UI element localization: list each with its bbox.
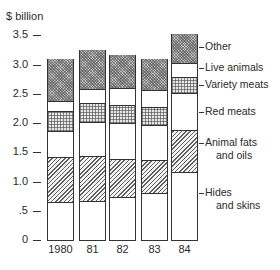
y-tick-mark (33, 211, 41, 212)
segment-hides-and-skins (80, 201, 105, 240)
y-tick-mark (33, 65, 41, 66)
legend-leader-hides (199, 193, 204, 194)
segment-red-meats (110, 123, 135, 159)
bar-1980 (47, 59, 74, 241)
segment-other (80, 50, 105, 89)
segment-red-meats (172, 93, 197, 130)
y-tick-mark (33, 94, 41, 95)
legend-leader-red-meats (199, 112, 204, 113)
legend-label-animal-fats-2: and oils (216, 149, 252, 161)
segment-live-animals (172, 63, 197, 77)
bar-84 (171, 34, 198, 241)
bar-82 (109, 55, 136, 241)
x-tick-label: 1980 (43, 243, 79, 255)
segment-animal-fats-and-oils (172, 130, 197, 172)
y-tick-mark (33, 123, 41, 124)
segment-live-animals (142, 90, 167, 107)
x-tick-label: 84 (167, 243, 203, 255)
y-tick-label: 3.5 (0, 28, 28, 40)
segment-other (48, 59, 73, 101)
segment-variety-meats (80, 103, 105, 122)
legend-label-hides-2: and skins (216, 199, 260, 211)
segment-animal-fats-and-oils (80, 156, 105, 201)
segment-other (110, 55, 135, 88)
bar-81 (79, 50, 106, 241)
segment-animal-fats-and-oils (48, 157, 73, 202)
legend-leader-live-animals (199, 68, 204, 69)
segment-live-animals (110, 88, 135, 105)
x-tick-label: 82 (105, 243, 141, 255)
y-tick-mark (33, 35, 41, 36)
legend-label-other: Other (205, 40, 231, 52)
segment-animal-fats-and-oils (142, 160, 167, 193)
y-tick-mark (33, 240, 41, 241)
legend-label-hides: Hides (205, 186, 232, 198)
y-tick-label: 1.5 (0, 145, 28, 157)
legend-label-variety-meats: Variety meats (205, 78, 268, 90)
segment-animal-fats-and-oils (110, 159, 135, 196)
segment-hides-and-skins (110, 197, 135, 240)
segment-live-animals (48, 101, 73, 111)
y-tick-label: 2.5 (0, 87, 28, 99)
legend-label-live-animals: Live animals (205, 61, 263, 73)
segment-red-meats (142, 125, 167, 160)
segment-other (142, 59, 167, 90)
legend-leader-other (199, 47, 204, 48)
y-axis-label: $ billion (6, 10, 43, 22)
y-tick-label: 0 (0, 233, 28, 245)
segment-red-meats (80, 122, 105, 156)
segment-hides-and-skins (48, 202, 73, 240)
y-tick-label: 3.0 (0, 58, 28, 70)
segment-hides-and-skins (142, 193, 167, 240)
segment-hides-and-skins (172, 172, 197, 240)
segment-variety-meats (110, 105, 135, 123)
legend-label-red-meats: Red meats (205, 105, 256, 117)
y-tick-mark (33, 182, 41, 183)
segment-variety-meats (172, 77, 197, 93)
legend-label-animal-fats: Animal fats (205, 136, 257, 148)
legend-leader-animal-fats (199, 143, 204, 144)
segment-variety-meats (48, 111, 73, 131)
bar-83 (141, 59, 168, 241)
segment-red-meats (48, 131, 73, 157)
y-tick-mark (33, 152, 41, 153)
legend-leader-variety-meats (199, 85, 204, 86)
segment-variety-meats (142, 107, 167, 125)
segment-live-animals (80, 89, 105, 103)
segment-other (172, 34, 197, 63)
y-tick-label: 1.0 (0, 175, 28, 187)
y-tick-label: .5 (0, 204, 28, 216)
y-tick-label: 2.0 (0, 116, 28, 128)
